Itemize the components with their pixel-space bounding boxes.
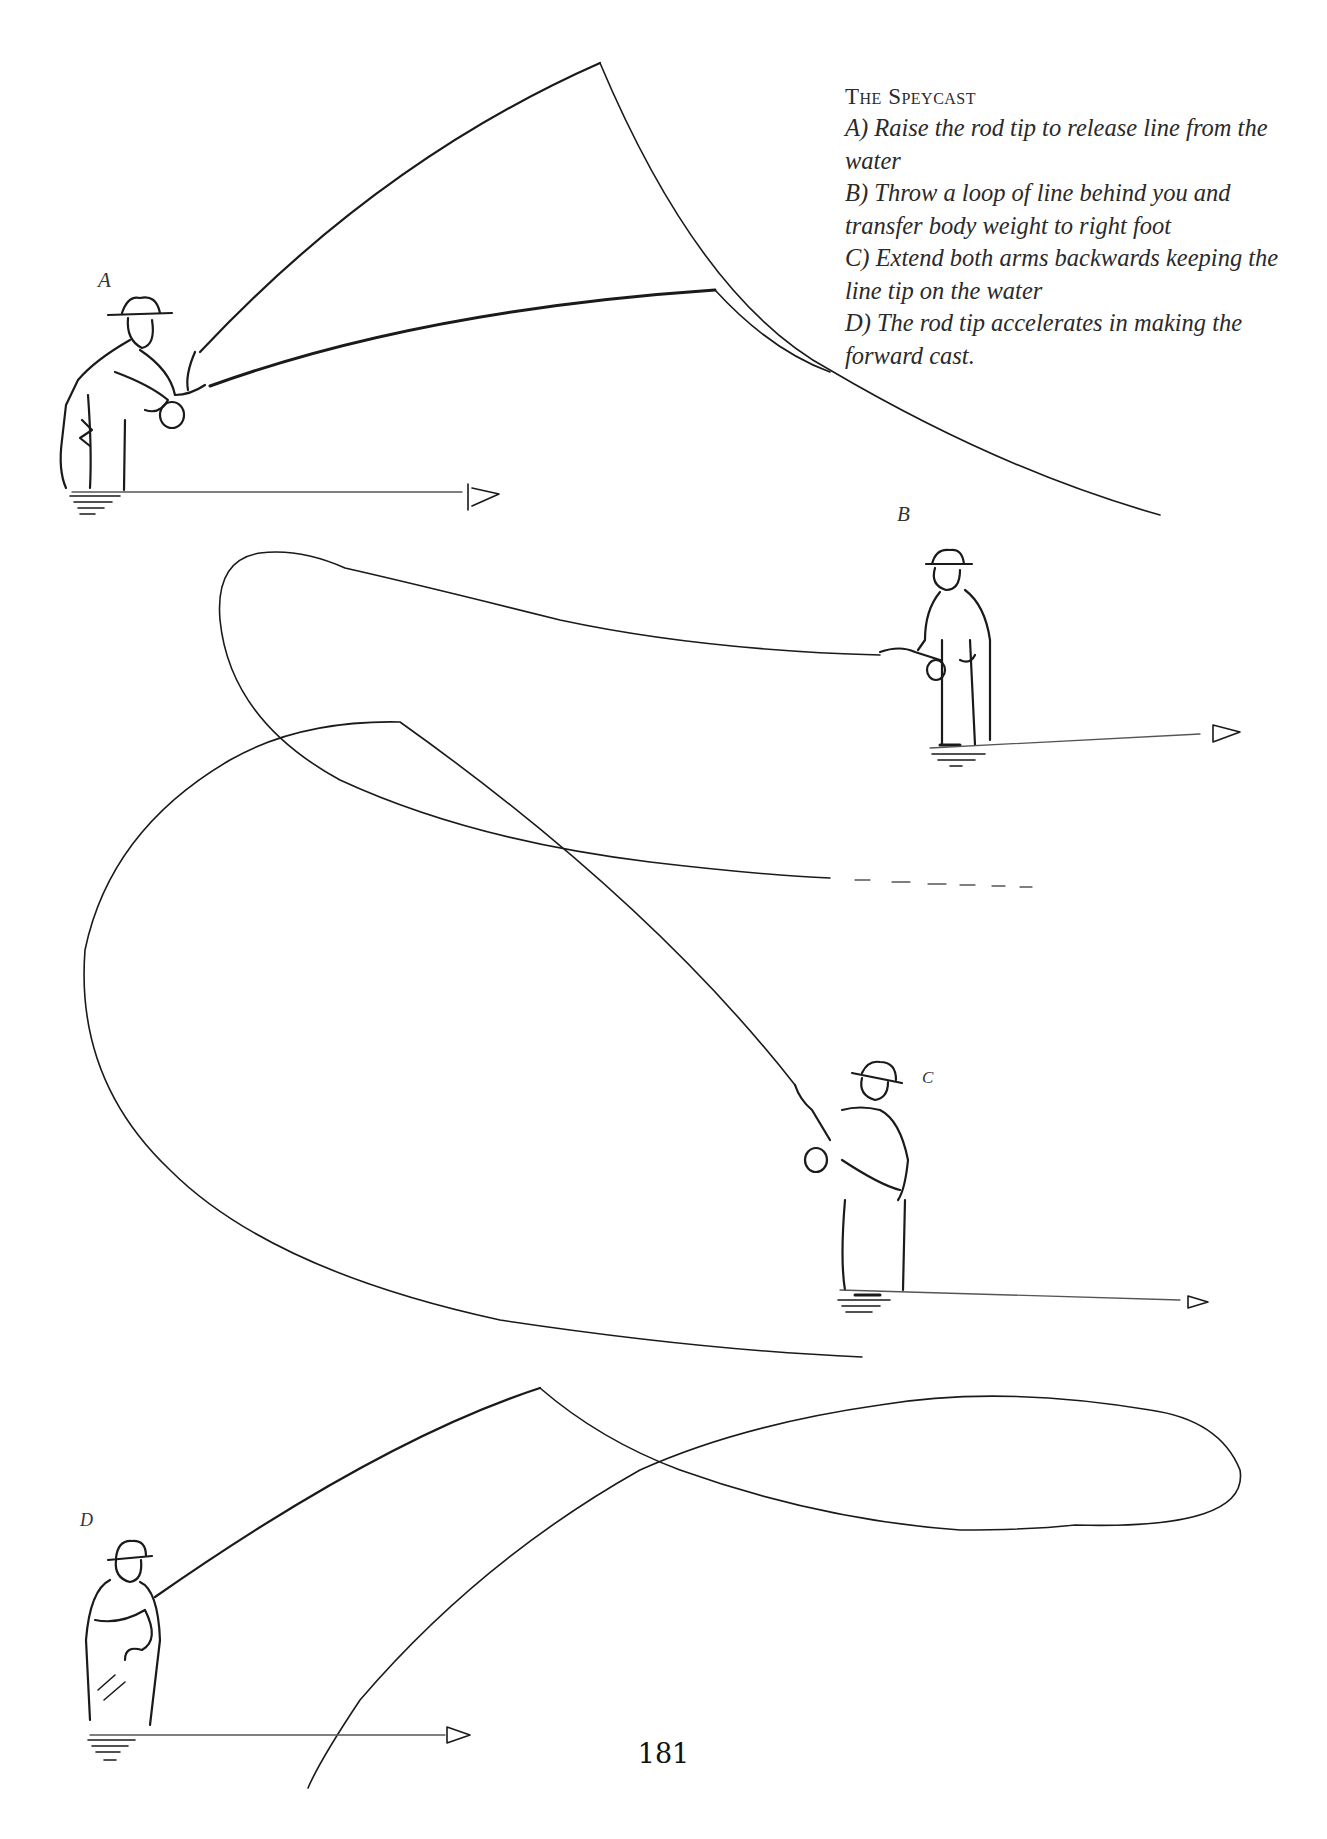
caption-block: The Speycast A) Raise the rod tip to rel… <box>845 82 1285 372</box>
angler-c-icon <box>795 1062 908 1295</box>
angler-d-icon <box>86 1541 160 1725</box>
figure-c-drawing <box>84 722 1208 1357</box>
caption-step-d: D) The rod tip accelerates in making the… <box>845 307 1285 372</box>
caption-step-c: C) Extend both arms backwards keeping th… <box>845 242 1285 307</box>
figure-label-b: B <box>897 502 910 527</box>
caption-step-b: B) Throw a loop of line behind you and t… <box>845 177 1285 242</box>
caption-step-a: A) Raise the rod tip to release line fro… <box>845 112 1285 177</box>
angler-a-icon <box>61 297 205 490</box>
caption-title: The Speycast <box>845 82 1285 112</box>
page-number: 181 <box>0 1738 1327 1769</box>
figure-label-a: A <box>98 268 111 293</box>
figure-label-c: C <box>922 1068 933 1088</box>
angler-b-icon <box>880 550 990 745</box>
figure-label-d: D <box>80 1510 93 1531</box>
figure-d-drawing <box>86 1388 1241 1788</box>
figure-b-drawing <box>220 550 1241 887</box>
